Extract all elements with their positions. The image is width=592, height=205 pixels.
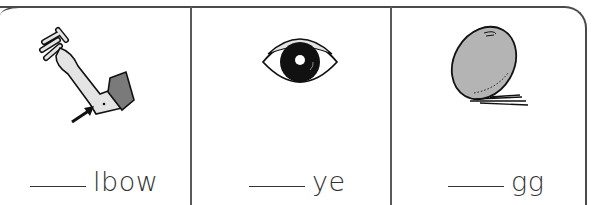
word-ending: gg [511, 166, 544, 197]
answer-blank[interactable] [448, 186, 504, 187]
word-prompt: gg [448, 166, 544, 197]
answer-blank[interactable] [30, 186, 86, 187]
worksheet-item-elbow: lbow [0, 8, 190, 205]
word-ending: lbow [93, 166, 158, 197]
word-prompt: lbow [30, 166, 158, 197]
eye-picture [260, 30, 340, 92]
worksheet-item-egg: gg [392, 8, 588, 205]
egg-picture [450, 23, 534, 109]
word-ending: ye [312, 166, 346, 197]
word-prompt: ye [249, 166, 346, 197]
answer-blank[interactable] [249, 186, 305, 187]
elbow-picture [38, 22, 148, 132]
worksheet-item-eye: ye [192, 8, 390, 205]
